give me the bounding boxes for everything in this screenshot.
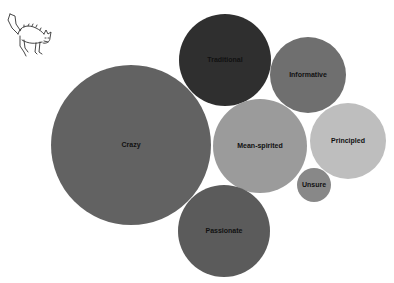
bubble-passionate[interactable]: Passionate <box>178 185 270 277</box>
bubble-unsure[interactable]: Unsure <box>297 168 331 202</box>
bubble-label: Informative <box>289 71 327 78</box>
bubble-traditional[interactable]: Traditional <box>179 14 271 106</box>
bubble-label: Unsure <box>302 181 326 188</box>
bubble-label: Passionate <box>206 227 243 234</box>
bubble-chart: CrazyTraditionalInformativeMean-spirited… <box>0 0 394 283</box>
bubble-label: Principled <box>331 137 365 145</box>
bubble-label: Crazy <box>121 141 140 149</box>
bubble-label: Traditional <box>207 56 242 63</box>
bubble-crazy[interactable]: Crazy <box>51 65 211 225</box>
bubble-mean-spirited[interactable]: Mean-spirited <box>213 99 307 193</box>
bubble-label: Mean-spirited <box>237 142 283 150</box>
bubble-principled[interactable]: Principled <box>310 103 386 179</box>
bubble-informative[interactable]: Informative <box>270 37 346 113</box>
